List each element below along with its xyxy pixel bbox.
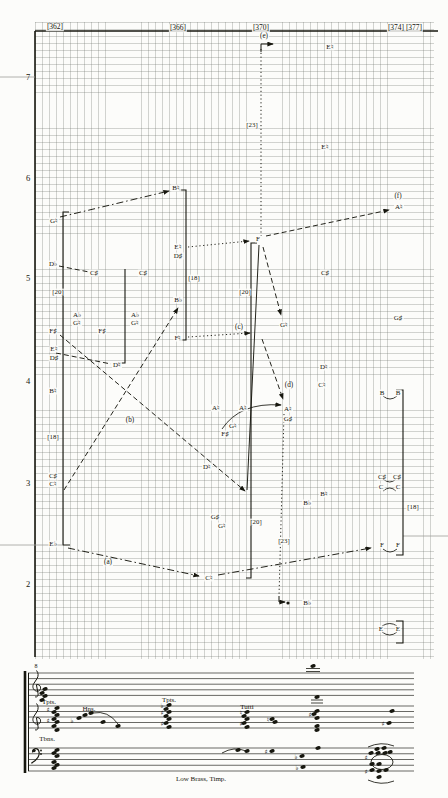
notehead <box>369 768 375 773</box>
tie-slur <box>383 479 396 482</box>
accidental-sharp-icon: ♯ <box>381 720 384 728</box>
accidental-sharp-icon: ♯ <box>160 709 163 717</box>
tie-slur <box>383 549 397 552</box>
duration-bracket <box>396 621 403 643</box>
notehead <box>315 746 321 751</box>
notehead <box>39 698 45 703</box>
voice-leading-line <box>247 245 259 490</box>
voice-leading-line <box>56 353 111 364</box>
notehead <box>376 762 382 767</box>
accidental-sharp-icon: ♯ <box>239 720 242 728</box>
tie-slur <box>382 632 397 635</box>
figure-page: ♯♯♭♭♯♯♮♯♮♯♯♯♭♭♯♯ [362][366][370][374][37… <box>0 0 448 798</box>
duration-bracket <box>63 212 70 545</box>
notehead <box>244 725 250 730</box>
bass-clef-icon <box>32 749 35 752</box>
accidental-sharp-icon: ♯ <box>46 717 49 725</box>
elbow-arrow <box>279 596 285 602</box>
score-slur <box>222 749 246 753</box>
notehead <box>389 709 395 714</box>
figure-lines-group <box>0 31 448 657</box>
notehead <box>299 754 305 759</box>
voice-leading-line <box>266 210 389 236</box>
notehead <box>163 721 169 726</box>
voice-leading-line <box>263 247 281 315</box>
notehead <box>76 716 82 721</box>
accidental-sharp-icon: ♯ <box>46 706 49 714</box>
accidental-flat-icon: ♭ <box>294 753 297 761</box>
notehead <box>310 664 316 669</box>
notehead <box>314 716 320 721</box>
notehead <box>244 710 250 715</box>
notehead <box>269 749 275 754</box>
voice-leading-line <box>60 191 169 217</box>
tie-slur <box>383 488 396 491</box>
notehead <box>374 747 380 752</box>
notehead <box>376 775 382 780</box>
accidental-sharp-icon: ♯ <box>308 711 311 719</box>
voice-leading-line <box>188 241 249 247</box>
accidental-flat-icon: ♭ <box>295 764 298 772</box>
voice-leading-line <box>188 333 250 337</box>
bass-clef-icon <box>40 753 42 755</box>
notehead <box>42 687 48 692</box>
voice-leading-line <box>279 414 284 596</box>
tie-slur <box>382 624 397 627</box>
note-dot <box>286 601 289 604</box>
accidental-sharp-icon: ♯ <box>264 748 267 756</box>
cluster-circle <box>371 755 393 770</box>
elbow-arrow <box>261 44 273 52</box>
duration-bracket <box>246 243 257 578</box>
bass-clef-icon <box>40 750 42 752</box>
tie-slur <box>383 396 397 399</box>
notehead <box>386 721 392 726</box>
notehead <box>100 720 106 725</box>
accidental-sharp-icon: ♯ <box>364 754 367 762</box>
notehead <box>166 703 172 708</box>
duration-bracket <box>396 390 403 555</box>
accidental-sharp-icon: ♯ <box>364 768 367 776</box>
voice-leading-line <box>60 335 245 491</box>
figure-overlay: ♯♯♭♭♯♯♮♯♮♯♯♯♭♭♯♯ <box>0 0 448 798</box>
accidental-natural-icon: ♮ <box>240 709 242 717</box>
score-slur <box>368 780 394 783</box>
accidental-sharp-icon: ♯ <box>160 720 163 728</box>
accidental-flat-icon: ♭ <box>70 717 73 725</box>
voice-leading-line <box>262 339 283 399</box>
score-group: ♯♯♭♭♯♯♮♯♮♯♯♯♭♭♯♯ <box>25 664 414 784</box>
voice-leading-line <box>68 548 199 576</box>
score-slur <box>368 744 394 747</box>
notehead <box>381 746 387 751</box>
voice-leading-line <box>218 548 371 575</box>
duration-bracket <box>118 269 125 363</box>
notehead <box>166 725 172 730</box>
accidental-natural-icon: ♮ <box>267 716 269 724</box>
duration-bracket <box>179 190 186 340</box>
voice-leading-line <box>64 308 178 490</box>
notehead <box>368 751 374 756</box>
